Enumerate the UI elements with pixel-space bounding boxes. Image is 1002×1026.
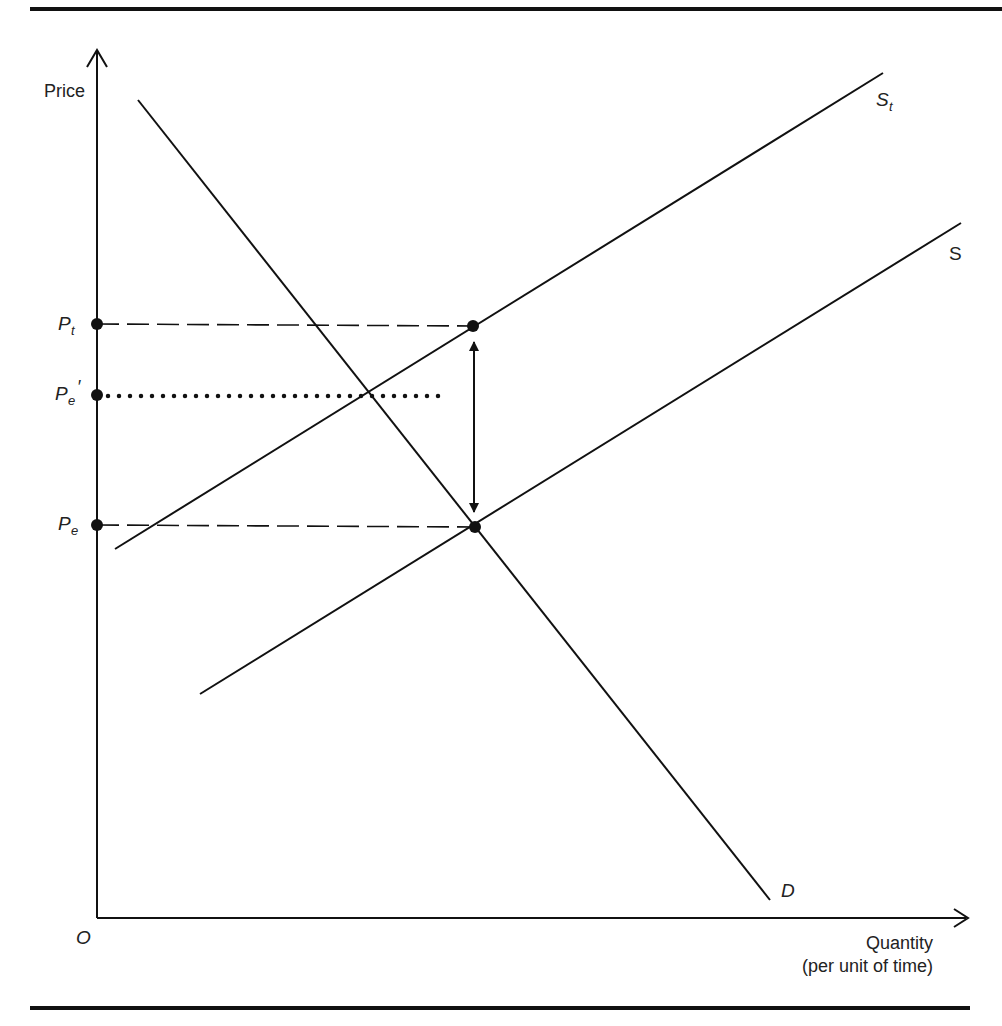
svg-text:S: S (876, 89, 889, 110)
pt-axis-point (91, 318, 103, 330)
pe-label: P e (58, 513, 78, 538)
pt-dashed-line (97, 324, 473, 326)
supply-with-tax-label: S t (876, 89, 894, 114)
demand-label: D (781, 880, 795, 901)
y-axis (87, 50, 107, 918)
pt-label: P t (58, 313, 76, 338)
svg-text:P: P (58, 513, 71, 534)
x-axis-sublabel: (per unit of time) (802, 956, 933, 976)
svg-text:′: ′ (77, 377, 81, 397)
svg-text:P: P (55, 383, 68, 404)
svg-text:e: e (71, 523, 78, 538)
pre-tax-equilibrium-point (469, 521, 481, 533)
svg-text:t: t (71, 323, 76, 338)
pe-prime-label: P e ′ (55, 377, 81, 408)
svg-text:P: P (58, 313, 71, 334)
svg-text:e: e (68, 393, 75, 408)
supply-with-tax-curve (115, 73, 883, 549)
svg-text:t: t (889, 99, 894, 114)
y-axis-label: Price (44, 81, 85, 101)
supply-label: S (949, 243, 962, 264)
supply-demand-tax-diagram: Price Quantity (per unit of time) O D S … (0, 0, 1002, 1026)
x-axis (97, 909, 968, 927)
supply-curve (200, 223, 961, 694)
pe-prime-axis-point (91, 389, 103, 401)
tax-equilibrium-point (467, 320, 479, 332)
origin-label: O (76, 927, 91, 948)
pe-axis-point (91, 519, 103, 531)
x-axis-label: Quantity (866, 933, 933, 953)
demand-curve (138, 100, 770, 900)
